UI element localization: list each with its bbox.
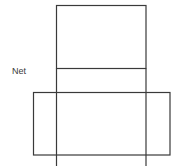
- net-drawing: [0, 0, 179, 166]
- top-face: [57, 6, 147, 69]
- net-diagram: Net: [0, 0, 179, 166]
- flap-row: [34, 93, 171, 156]
